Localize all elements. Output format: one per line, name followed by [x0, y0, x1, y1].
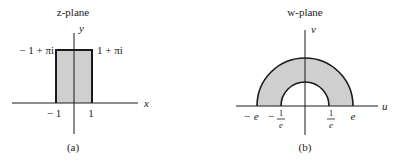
panel-a-caption: (a)	[67, 141, 80, 154]
x-axis-label: x	[143, 97, 149, 109]
panel-a-z-plane: z-plane x y − 1 + πi 1 + πi − 1 1 (a)	[12, 6, 149, 154]
figure: z-plane x y − 1 + πi 1 + πi − 1 1 (a) w-…	[0, 0, 398, 164]
panel-b-w-plane: w-plane u v − e − 1 e 1 e e (b)	[236, 6, 388, 154]
tick-label-inv-e-numerator: 1	[329, 108, 334, 118]
v-axis-label: v	[311, 23, 316, 35]
panel-a-title: z-plane	[57, 6, 89, 18]
y-axis-label: y	[78, 22, 84, 34]
tick-label-neg-e: − e	[243, 110, 258, 122]
tick-label-inv-e-denominator: e	[329, 120, 333, 130]
u-axis-label: u	[382, 100, 388, 112]
tick-label-neg-inv-e-denominator: e	[279, 120, 283, 130]
tick-label-neg-1: − 1	[47, 107, 61, 119]
tick-label-1: 1	[88, 107, 94, 119]
corner-label-top-right: 1 + πi	[97, 44, 123, 56]
tick-label-neg-inv-e-numerator: 1	[279, 108, 284, 118]
tick-label-e: e	[351, 110, 356, 122]
corner-label-top-left: − 1 + πi	[19, 44, 54, 56]
panel-b-title: w-plane	[287, 6, 323, 18]
tick-label-neg-inv-e-sign: −	[268, 110, 274, 122]
panel-b-caption: (b)	[299, 141, 312, 154]
